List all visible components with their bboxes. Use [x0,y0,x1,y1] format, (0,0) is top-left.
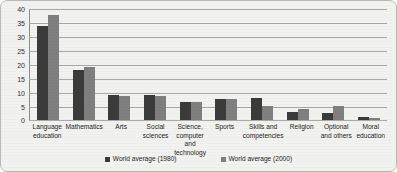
y-axis-tick-label: 10 [17,90,25,97]
bar-group [351,9,387,120]
category-axis-label: Moral education [353,123,387,158]
bar [48,15,59,120]
bar-group [101,9,137,120]
bar-group [173,9,209,120]
bar [298,109,309,120]
category-axis-label: Skills and competencies [242,123,285,158]
category-axis-label: Sports [207,123,241,158]
bar [84,67,95,120]
bar [37,26,48,120]
bar [180,102,191,120]
bar [144,95,155,120]
y-axis-tick-label: 40 [17,6,25,13]
bar [287,112,298,120]
bar [358,117,369,120]
bar-group [66,9,102,120]
bar-group [280,9,316,120]
bar [191,102,202,120]
bar [369,118,380,120]
bar-group [30,9,66,120]
bar [73,70,84,120]
gridline: 0 [29,120,387,121]
y-axis-tick-label: 0 [21,117,25,124]
category-axis-label: Arts [104,123,138,158]
legend-swatch-icon [105,157,110,162]
y-axis-tick-label: 20 [17,62,25,69]
bar-group [244,9,280,120]
category-axis-label: Language education [30,123,64,158]
bar [262,106,273,120]
y-axis-tick-label: 30 [17,34,25,41]
category-axis-label: Social sciences [138,123,172,158]
bar [251,98,262,120]
bar [108,95,119,120]
y-axis-tick-label: 35 [17,20,25,27]
y-axis-tick-label: 15 [17,76,25,83]
bar [155,96,166,120]
legend-label: World average (2000) [229,156,293,163]
bar [322,113,333,120]
bar [119,96,130,120]
legend-swatch-icon [221,157,226,162]
category-axis-label: Science, computer and technology [173,123,207,158]
bar [333,106,344,120]
bar [215,99,226,120]
category-axis-label: Mathematics [64,123,103,158]
bars-layer [30,9,387,120]
bar [226,99,237,120]
bar-group [209,9,245,120]
legend-entry: World average (1980) [105,156,177,163]
chart-legend: World average (1980)World average (2000) [1,156,396,163]
plot-area: 4035302520151050 [29,9,387,121]
category-axis-label: Optional and others [319,123,353,158]
category-axis-label: Religion [285,123,319,158]
y-axis-tick-label: 5 [21,104,25,111]
legend-entry: World average (2000) [221,156,293,163]
category-axis: Language educationMathematicsArtsSocial … [30,123,388,158]
bar-group [316,9,352,120]
bar-chart-figure: 4035302520151050 Language educationMathe… [0,0,397,172]
bar-group [137,9,173,120]
y-axis-tick-label: 25 [17,48,25,55]
legend-label: World average (1980) [113,156,177,163]
